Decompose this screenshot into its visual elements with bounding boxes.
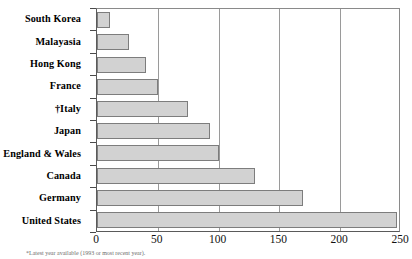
bar-japan <box>97 123 210 139</box>
bar-row <box>97 98 399 120</box>
horizontal-bar-chart: South Korea Malayasia Hong Kong France †… <box>0 0 412 259</box>
category-label-united-states: United States <box>0 210 86 232</box>
category-label-malayasia: Malayasia <box>0 30 86 52</box>
bar-south-korea <box>97 12 110 28</box>
category-label-south-korea: South Korea <box>0 8 86 30</box>
bar-row <box>97 164 399 186</box>
x-axis-labels: 050100150200250 <box>0 234 412 250</box>
x-tick-label-250: 250 <box>391 234 408 246</box>
category-label-canada: Canada <box>0 165 86 187</box>
bar-row <box>97 76 399 98</box>
category-label-france: France <box>0 75 86 97</box>
bar-malayasia <box>97 34 129 50</box>
x-tick-label-0: 0 <box>93 234 99 246</box>
category-label-hong-kong: Hong Kong <box>0 53 86 75</box>
x-tick-label-150: 150 <box>270 234 287 246</box>
bar-row <box>97 120 399 142</box>
bar-germany <box>97 190 303 206</box>
bar-row <box>97 53 399 75</box>
category-label-germany: Germany <box>0 187 86 209</box>
bar-canada <box>97 168 255 184</box>
x-tick-label-50: 50 <box>151 234 163 246</box>
bar-row <box>97 187 399 209</box>
bar-hong-kong <box>97 57 146 73</box>
bar-row <box>97 9 399 31</box>
bar-row <box>97 142 399 164</box>
category-label-england-and-wales: England & Wales <box>0 142 86 164</box>
category-label-japan: Japan <box>0 120 86 142</box>
bar-row <box>97 31 399 53</box>
x-tick-label-100: 100 <box>209 234 226 246</box>
bars-layer <box>97 9 399 231</box>
category-axis-labels: South Korea Malayasia Hong Kong France †… <box>0 8 86 232</box>
category-label-italy: †Italy <box>0 98 86 120</box>
bar-england-and-wales <box>97 145 219 161</box>
bar-france <box>97 79 158 95</box>
bar-italy <box>97 101 188 117</box>
bar-united-states <box>97 212 397 228</box>
bar-row <box>97 209 399 231</box>
plot-area <box>96 8 400 232</box>
x-tick-label-200: 200 <box>331 234 348 246</box>
chart-footnote: *Latest year available (1993 or most rec… <box>26 250 406 256</box>
